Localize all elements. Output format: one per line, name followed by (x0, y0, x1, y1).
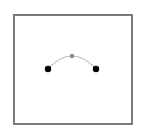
left-endpoint-dot[interactable] (45, 66, 51, 72)
control-point-dot[interactable] (70, 54, 74, 58)
diagram-canvas (0, 0, 142, 135)
right-endpoint-dot[interactable] (93, 66, 99, 72)
